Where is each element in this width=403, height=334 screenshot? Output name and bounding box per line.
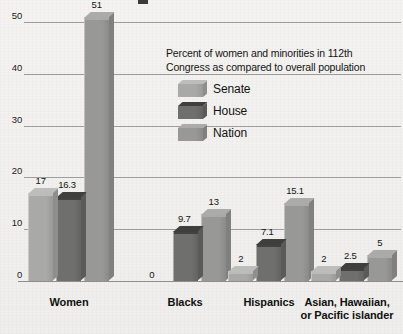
bar-front-face bbox=[56, 197, 81, 281]
value-label: 7.1 bbox=[261, 226, 274, 237]
value-label: 16.3 bbox=[58, 179, 76, 190]
bar-front-face bbox=[311, 271, 336, 281]
y-axis-tick-label: 30 bbox=[2, 114, 22, 125]
legend-caption-line1: Percent of women and minorities in 112th bbox=[166, 47, 398, 61]
bar-house-0 bbox=[56, 197, 80, 281]
bar-front-face bbox=[284, 203, 309, 281]
legend-item-house[interactable]: House bbox=[178, 100, 398, 122]
bar-house-3 bbox=[339, 268, 363, 281]
bar-front-face bbox=[28, 193, 53, 281]
legend-item-nation[interactable]: Nation bbox=[178, 122, 398, 144]
axis-baseline bbox=[18, 281, 403, 282]
value-label: 9.7 bbox=[178, 213, 191, 224]
gridline-50 bbox=[24, 22, 401, 23]
bar-front-face bbox=[367, 255, 392, 281]
x-axis-category-label: Blacks bbox=[140, 296, 230, 309]
bar-house-1 bbox=[173, 231, 197, 281]
y-axis-tick-label: 0 bbox=[2, 269, 22, 280]
bar-front-face bbox=[256, 244, 281, 281]
legend-label-nation: Nation bbox=[213, 126, 247, 140]
bar-nation-2 bbox=[284, 203, 308, 281]
y-axis-tick-label: 40 bbox=[2, 62, 22, 73]
x-axis-category-label: Asian, Hawaiian,or Pacific islander bbox=[291, 296, 403, 322]
chart-legend: Percent of women and minorities in 112th… bbox=[166, 47, 398, 144]
value-label: 5 bbox=[377, 237, 382, 248]
value-label: 2.5 bbox=[344, 250, 357, 261]
bar-house-2 bbox=[256, 244, 280, 281]
legend-label-senate: Senate bbox=[213, 82, 250, 96]
value-label: 2 bbox=[321, 253, 326, 264]
bar-front-face bbox=[201, 214, 226, 281]
bar-front-face bbox=[339, 268, 364, 281]
bar-nation-0 bbox=[84, 17, 108, 281]
legend-item-senate[interactable]: Senate bbox=[178, 78, 398, 100]
category-label-line2: or Pacific islander bbox=[291, 309, 403, 322]
category-label-line1: Asian, Hawaiian, bbox=[291, 296, 403, 309]
x-axis-category-label: Women bbox=[24, 296, 114, 309]
value-label: 15.1 bbox=[286, 185, 304, 196]
bar-senate-0 bbox=[28, 193, 52, 281]
legend-caption-line2: Congress as compared to overall populati… bbox=[166, 61, 398, 75]
nation-swatch bbox=[178, 128, 203, 141]
y-axis-tick-label: 20 bbox=[2, 165, 22, 176]
legend-caption: Percent of women and minorities in 112th… bbox=[166, 47, 398, 74]
value-label: 17 bbox=[36, 175, 46, 186]
bar-nation-3 bbox=[367, 255, 391, 281]
value-label: 0 bbox=[149, 269, 154, 280]
y-axis-tick-label: 50 bbox=[2, 10, 22, 21]
category-label-line1: Blacks bbox=[140, 296, 230, 309]
bar-front-face bbox=[228, 271, 253, 281]
category-label-line1: Women bbox=[24, 296, 114, 309]
bar-front-face bbox=[173, 231, 198, 281]
value-label: 51 bbox=[92, 0, 102, 10]
bar-front-face bbox=[84, 17, 109, 281]
senate-swatch bbox=[178, 84, 203, 97]
y-axis-tick-label: 10 bbox=[2, 217, 22, 228]
bar-chart: 010203040501716.351Women09.713Blacks27.1… bbox=[0, 0, 403, 334]
value-label: 2 bbox=[238, 253, 243, 264]
gridline-20 bbox=[24, 177, 401, 178]
bar-senate-3 bbox=[311, 271, 335, 281]
legend-label-house: House bbox=[213, 104, 247, 118]
value-label: 13 bbox=[209, 196, 219, 207]
house-swatch bbox=[178, 106, 203, 119]
bar-nation-1 bbox=[201, 214, 225, 281]
bar-senate-2 bbox=[228, 271, 252, 281]
